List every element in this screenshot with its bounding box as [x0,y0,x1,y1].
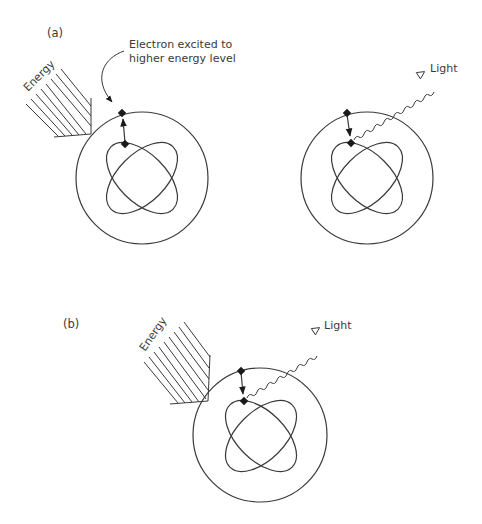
orbit-2 [213,388,309,484]
callout-label-line2: higher energy level [129,52,236,65]
orbit-2 [319,130,415,226]
atom-icon [301,112,433,244]
atom-excitation-diagram: (a) Energy Electron excited to higher en… [0,0,482,524]
panel-a-emit: Light [301,62,458,244]
panel-b: (b) Energy Light [63,314,352,502]
orbit-2 [94,130,190,226]
light-label: Light [430,62,458,75]
decay-arrow-icon [347,114,350,136]
orbit-1 [213,388,309,484]
orbit-1 [94,130,190,226]
electron-excited [237,367,245,375]
energy-label: Energy [137,314,170,353]
callout-label-line1: Electron excited to [129,38,232,51]
outer-shell [301,112,433,244]
energy-label: Energy [21,57,58,94]
light-wave-icon [354,92,434,140]
excitation-arrow-icon [123,119,125,143]
light-arrowhead-icon [418,72,424,76]
electron-ground [121,140,129,148]
outer-shell [76,112,208,244]
atom-icon [76,112,208,244]
light-label: Light [324,319,352,332]
panel-label-a: (a) [47,26,63,40]
callout-arrow-icon [102,51,124,102]
panel-a-absorb: (a) Energy Electron excited to higher en… [21,26,236,244]
light-arrowhead-icon [313,328,319,332]
light-wave-icon [247,356,317,398]
electron-ground [347,139,355,147]
panel-label-b: (b) [63,317,79,331]
electron-ground [240,397,248,405]
orbit-1 [319,130,415,226]
decay-arrow-icon [241,372,243,394]
